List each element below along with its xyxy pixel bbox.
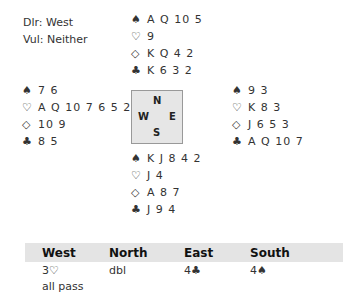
diamond-icon: ◇ — [131, 45, 147, 62]
east-clubs: A Q 10 7 — [248, 135, 304, 148]
east-diamonds: J 6 5 3 — [248, 118, 290, 131]
diamond-icon: ◇ — [22, 116, 38, 133]
compass-west: W — [138, 111, 149, 122]
diamond-icon: ◇ — [131, 184, 147, 201]
bid: dbl — [92, 264, 167, 277]
north-hand: ♠A Q 10 5 ♡9 ◇K Q 4 2 ♣K 6 3 2 — [131, 11, 203, 79]
heart-icon: ♡ — [131, 167, 147, 184]
west-hearts: A Q 10 7 6 5 2 — [38, 101, 131, 114]
east-spades: 9 3 — [248, 84, 269, 97]
south-clubs: J 9 4 — [147, 203, 176, 216]
club-icon: ♣ — [131, 62, 147, 79]
club-icon: ♣ — [131, 201, 147, 218]
heart-icon: ♡ — [22, 99, 38, 116]
diamond-icon: ◇ — [232, 116, 248, 133]
compass-north: N — [153, 95, 161, 106]
north-hearts: 9 — [147, 30, 155, 43]
spade-icon: ♠ — [131, 150, 147, 167]
west-spades: 7 6 — [38, 84, 59, 97]
heart-icon: ♡ — [232, 99, 248, 116]
spade-icon: ♠ — [131, 11, 147, 28]
header-north: North — [92, 246, 167, 260]
south-diamonds: A 8 7 — [147, 186, 181, 199]
club-icon: ♣ — [232, 133, 248, 150]
spade-icon: ♠ — [232, 82, 248, 99]
auction-row: 3♡ dbl 4♣ 4♠ — [25, 262, 343, 278]
bid: 4♣ — [167, 264, 233, 277]
vulnerability-label: Vul: Neither — [23, 31, 88, 48]
east-hand: ♠9 3 ♡K 8 3 ◇J 6 5 3 ♣A Q 10 7 — [232, 82, 304, 150]
spade-icon: ♠ — [22, 82, 38, 99]
north-spades: A Q 10 5 — [147, 13, 203, 26]
auction-header: West North East South — [25, 243, 343, 262]
header-east: East — [167, 246, 233, 260]
dealer-label: Dlr: West — [23, 14, 88, 31]
auction-table: West North East South 3♡ dbl 4♣ 4♠ all p… — [25, 243, 343, 294]
header-west: West — [25, 246, 92, 260]
north-diamonds: K Q 4 2 — [147, 47, 194, 60]
deal-info: Dlr: West Vul: Neither — [23, 14, 88, 48]
header-south: South — [233, 246, 297, 260]
compass-south: S — [153, 127, 160, 138]
south-spades: K J 8 4 2 — [147, 152, 201, 165]
bid: all pass — [25, 280, 145, 293]
bid: 3♡ — [25, 264, 92, 277]
west-diamonds: 10 9 — [38, 118, 67, 131]
heart-icon: ♡ — [131, 28, 147, 45]
compass-box: N W E S — [131, 90, 183, 144]
west-hand: ♠7 6 ♡A Q 10 7 6 5 2 ◇10 9 ♣8 5 — [22, 82, 131, 150]
club-icon: ♣ — [22, 133, 38, 150]
bid: 4♠ — [233, 264, 297, 277]
south-hearts: J 4 — [147, 169, 164, 182]
auction-row: all pass — [25, 278, 343, 294]
east-hearts: K 8 3 — [248, 101, 281, 114]
west-clubs: 8 5 — [38, 135, 59, 148]
north-clubs: K 6 3 2 — [147, 64, 193, 77]
south-hand: ♠K J 8 4 2 ♡J 4 ◇A 8 7 ♣J 9 4 — [131, 150, 201, 218]
compass-east: E — [169, 111, 176, 122]
